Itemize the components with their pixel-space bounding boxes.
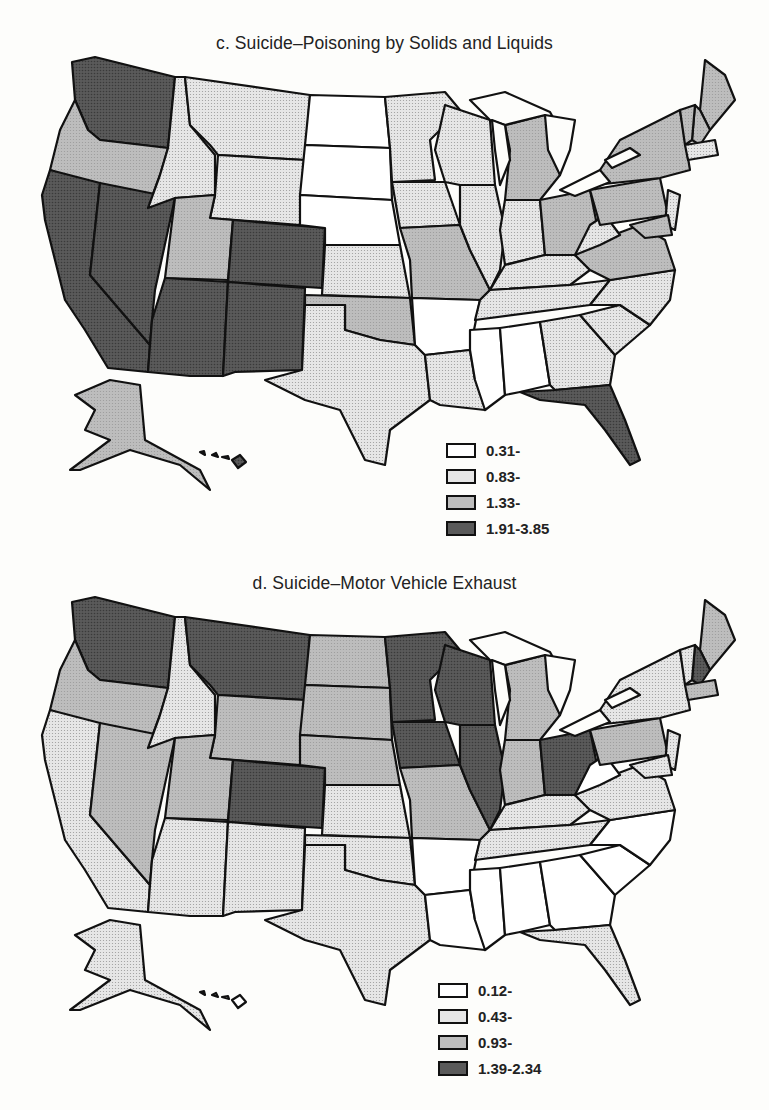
us-map-d [0, 540, 769, 1110]
us-map-c [0, 0, 769, 560]
state-co [228, 760, 325, 828]
state-ia [392, 722, 460, 768]
legend-item: 0.43- [438, 1003, 541, 1029]
legend-swatch-4 [438, 1061, 468, 1076]
legend-swatch-2 [446, 469, 476, 484]
state-nd [305, 635, 390, 688]
state-ny [595, 110, 690, 185]
state-az [148, 278, 228, 376]
legend-swatch-1 [446, 443, 476, 458]
legend-swatch-2 [438, 1009, 468, 1024]
legend-item: 1.39-2.34 [438, 1055, 541, 1081]
legend-swatch-1 [438, 983, 468, 998]
state-hi [200, 451, 246, 468]
legend-item: 0.12- [438, 977, 541, 1003]
map-panel-d: d. Suicide–Motor Vehicle Exhaust 0.12- 0… [0, 540, 769, 1110]
state-ma [685, 680, 718, 700]
legend-item: 1.91-3.85 [446, 515, 549, 541]
legend-item: 0.31- [446, 437, 549, 463]
state-wy [210, 695, 305, 765]
legend-c: 0.31- 0.83- 1.33- 1.91-3.85 [446, 437, 549, 541]
map-panel-c: c. Suicide–Poisoning by Solids and Liqui… [0, 0, 769, 560]
state-nm [223, 822, 305, 916]
state-sd [300, 145, 392, 200]
legend-swatch-3 [446, 495, 476, 510]
state-ia [392, 182, 460, 228]
legend-swatch-4 [446, 521, 476, 536]
state-in [500, 740, 545, 805]
legend-item: 0.83- [446, 463, 549, 489]
state-in [500, 200, 545, 265]
state-co [228, 220, 325, 288]
state-ks [322, 245, 410, 298]
state-wy [210, 155, 305, 225]
state-nd [305, 95, 390, 148]
state-ks [322, 785, 410, 838]
state-sd [300, 685, 392, 740]
state-az [148, 818, 228, 916]
legend-item: 0.93- [438, 1029, 541, 1055]
state-ny [595, 650, 690, 725]
state-ak [70, 920, 210, 1030]
state-hi [200, 991, 246, 1008]
state-ma [685, 140, 718, 160]
legend-d: 0.12- 0.43- 0.93- 1.39-2.34 [438, 977, 541, 1081]
legend-swatch-3 [438, 1035, 468, 1050]
state-ak [70, 380, 210, 490]
state-nm [223, 282, 305, 376]
legend-item: 1.33- [446, 489, 549, 515]
